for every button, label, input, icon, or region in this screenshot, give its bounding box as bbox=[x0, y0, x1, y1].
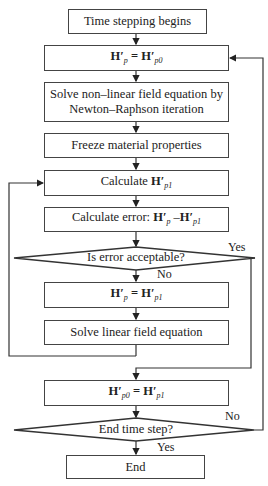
freeze-text: Freeze material properties bbox=[71, 138, 202, 153]
solve-linear-text: Solve linear field equation bbox=[70, 325, 202, 340]
calc-h-box: Calculate H′p1 bbox=[44, 170, 229, 196]
solve-nonlinear-line2: Newton–Raphson iteration bbox=[69, 102, 203, 117]
store-box: H′p0 = H′p1 bbox=[44, 380, 229, 406]
solve-linear-box: Solve linear field equation bbox=[44, 320, 229, 345]
init-box: H′p = H′p0 bbox=[44, 45, 229, 71]
calc-error-text: Calculate error: H′p –H′p1 bbox=[72, 210, 201, 229]
freeze-box: Freeze material properties bbox=[44, 133, 229, 158]
init-equation: H′p = H′p0 bbox=[111, 49, 163, 68]
error-yes-label: Yes bbox=[228, 240, 245, 255]
end-text: End bbox=[125, 460, 145, 475]
solve-nonlinear-box: Solve non–linear field equation by Newto… bbox=[44, 82, 229, 122]
start-box: Time stepping begins bbox=[68, 9, 207, 34]
end-yes-label: Yes bbox=[157, 440, 174, 455]
end-no-label: No bbox=[225, 409, 240, 424]
update-equation: H′p = H′p1 bbox=[111, 286, 163, 305]
end-box: End bbox=[66, 455, 205, 479]
decision-error-text: Is error acceptable? bbox=[60, 250, 212, 265]
store-equation: H′p0 = H′p1 bbox=[109, 384, 165, 403]
error-no-label: No bbox=[157, 267, 172, 282]
start-text: Time stepping begins bbox=[84, 14, 191, 29]
calc-h-text: Calculate H′p1 bbox=[101, 174, 173, 193]
update-box: H′p = H′p1 bbox=[44, 282, 229, 308]
solve-nonlinear-line1: Solve non–linear field equation by bbox=[50, 87, 223, 102]
decision-end-text: End time step? bbox=[60, 422, 212, 437]
calc-error-box: Calculate error: H′p –H′p1 bbox=[44, 207, 229, 232]
